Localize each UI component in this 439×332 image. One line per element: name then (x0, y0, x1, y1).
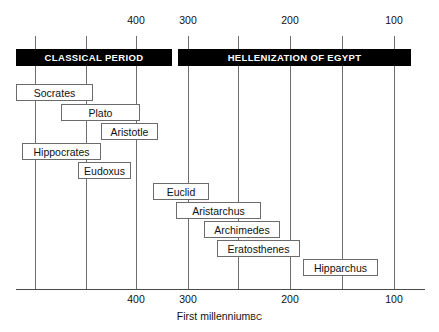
person-box-hippocrates: Hippocrates (22, 143, 101, 160)
person-box-eratosthenes: Eratosthenes (217, 240, 300, 257)
gridline-3 (188, 36, 189, 289)
bottom-tick-label-400: 400 (127, 293, 145, 305)
top-tick-label-100: 100 (385, 14, 403, 26)
person-box-hipparchus: Hipparchus (303, 259, 378, 276)
person-box-euclid: Euclid (153, 183, 209, 200)
caption-era-suffix: BC (250, 312, 262, 322)
bottom-tick-label-300: 300 (179, 293, 197, 305)
bottom-tick-label-200: 200 (281, 293, 299, 305)
timeline-chart: 400300200100 CLASSICAL PERIODHELLENIZATI… (0, 0, 439, 332)
x-axis-line (16, 289, 425, 290)
gridline-6 (342, 36, 343, 289)
chart-caption: First millenniumBC (0, 310, 439, 322)
person-box-aristotle: Aristotle (101, 123, 158, 140)
gridline-0 (35, 36, 36, 289)
era-bar-classical-period: CLASSICAL PERIOD (16, 49, 172, 66)
gridline-7 (394, 36, 395, 289)
caption-text: First millennium (177, 310, 251, 322)
person-box-archimedes: Archimedes (204, 221, 280, 238)
top-tick-label-400: 400 (127, 14, 145, 26)
person-box-eudoxus: Eudoxus (78, 162, 131, 179)
bottom-tick-label-100: 100 (385, 293, 403, 305)
gridline-2 (136, 36, 137, 289)
era-bar-hellenization-of-egypt: HELLENIZATION OF EGYPT (178, 49, 411, 66)
person-box-socrates: Socrates (16, 84, 93, 101)
top-tick-label-300: 300 (179, 14, 197, 26)
person-box-aristarchus: Aristarchus (176, 202, 261, 219)
top-tick-label-200: 200 (281, 14, 299, 26)
person-box-plato: Plato (61, 104, 140, 121)
